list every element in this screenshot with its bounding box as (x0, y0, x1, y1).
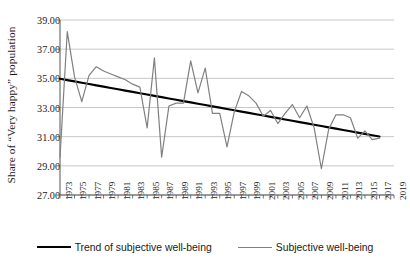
legend-label: Subjective well-being (276, 242, 374, 253)
legend-line-swatch (37, 246, 71, 248)
chart-legend: Trend of subjective well-beingSubjective… (0, 236, 410, 258)
legend-item: Trend of subjective well-being (37, 242, 212, 253)
legend-item: Subjective well-being (238, 242, 374, 253)
chart-container: Share of “Very happy” population 27.0029… (0, 0, 410, 263)
well-being-series (60, 32, 379, 169)
legend-line-swatch (238, 247, 272, 248)
legend-label: Trend of subjective well-being (75, 242, 212, 253)
plot-area (0, 0, 410, 263)
